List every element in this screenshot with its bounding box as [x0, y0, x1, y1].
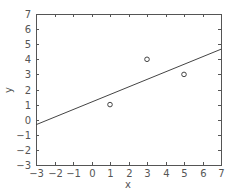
x-tick-label: 5 — [181, 168, 187, 179]
x-tick-label: 6 — [200, 168, 206, 179]
x-axis-label: x — [125, 179, 131, 190]
y-tick-label: 2 — [25, 85, 31, 96]
y-tick-label: 7 — [25, 9, 31, 20]
x-tick-label: 7 — [218, 168, 224, 179]
scatter-plot-with-fit: −3−2−101234567−3−2−101234567 x y — [0, 0, 230, 194]
x-tick-label: 2 — [126, 168, 132, 179]
y-tick-label: −2 — [16, 145, 31, 156]
y-axis-label: y — [3, 87, 14, 93]
y-tick-label: 1 — [25, 100, 31, 111]
y-tick-label: 6 — [25, 24, 31, 35]
y-tick-label: −1 — [16, 130, 31, 141]
x-tick-label: −2 — [48, 168, 63, 179]
x-tick-label: 4 — [163, 168, 169, 179]
x-tick-label: 1 — [107, 168, 113, 179]
y-tick-label: −3 — [16, 160, 31, 171]
x-tick-label: 3 — [144, 168, 150, 179]
x-tick-label: 0 — [89, 168, 95, 179]
y-tick-label: 0 — [25, 115, 31, 126]
x-tick-label: −1 — [66, 168, 81, 179]
y-tick-label: 4 — [25, 54, 31, 65]
y-tick-label: 3 — [25, 69, 31, 80]
y-tick-label: 5 — [25, 39, 31, 50]
x-tick-label: −3 — [29, 168, 44, 179]
chart-background — [0, 0, 230, 194]
